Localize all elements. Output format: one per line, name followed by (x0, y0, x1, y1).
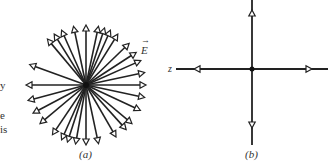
arrowhead-icon (249, 122, 255, 128)
arrowhead-icon (138, 71, 145, 77)
radial-field-diagram (0, 0, 328, 165)
arrowhead-icon (72, 26, 78, 33)
axis-label-z: z (168, 63, 172, 74)
arrowhead-icon (134, 105, 141, 111)
field-label-e: → E (141, 44, 148, 56)
arrowhead-icon (110, 130, 116, 137)
arrowhead-icon (83, 139, 89, 145)
arrowhead-icon (134, 60, 141, 66)
arrowhead-icon (26, 82, 32, 88)
arrowhead-icon (66, 135, 72, 142)
arrowhead-icon (140, 82, 146, 88)
arrowhead-icon (83, 25, 89, 31)
arrowhead-icon (54, 34, 60, 41)
arrowhead-icon (94, 26, 100, 33)
caption-a: (a) (79, 148, 92, 160)
arrowhead-icon (30, 64, 37, 70)
caption-b: (b) (245, 148, 258, 160)
arrowhead-icon (138, 93, 145, 99)
arrowhead-icon (130, 52, 137, 58)
arrowhead-icon (61, 30, 67, 37)
arrowhead-icon (112, 34, 118, 41)
arrowhead-icon (306, 66, 312, 72)
arrowhead-icon (73, 138, 79, 144)
arrowhead-icon (28, 96, 35, 102)
arrowhead-icon (100, 28, 106, 35)
arrowhead-icon (52, 128, 58, 135)
arrowhead-icon (33, 108, 40, 114)
arrowhead-icon (94, 137, 100, 144)
arrowhead-icon (194, 66, 200, 72)
arrowhead-icon (249, 10, 255, 16)
